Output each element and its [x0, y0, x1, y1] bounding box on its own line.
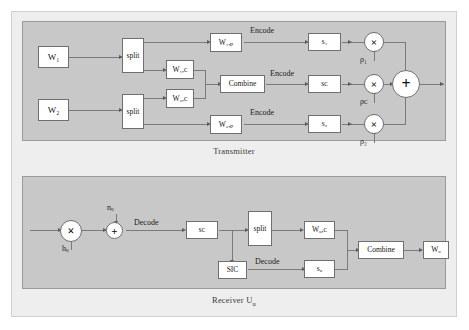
node-rx-adder: + — [106, 222, 123, 239]
arrowhead-sum-output — [440, 82, 444, 86]
node-wuc: Wᵤ,ᴄ — [304, 221, 335, 239]
node-sic: SIC — [218, 261, 247, 279]
label-encode-c: Encode — [270, 69, 294, 78]
edge-w2c-bus — [192, 98, 206, 99]
edge-sc-multc — [342, 84, 364, 85]
receiver-caption-subscript: u — [253, 300, 256, 307]
node-split-1: split — [122, 38, 144, 73]
edge-sc-junction — [219, 230, 247, 231]
edge-split-wuc — [272, 230, 302, 231]
node-w2: W₂ — [38, 99, 69, 121]
edge-s2-mult2 — [342, 124, 364, 125]
node-su: sᵤ — [304, 260, 335, 278]
figure-canvas: W₁ W₂ split split W₁,ᴄ W₂,ᴄ W₁,ₚ W₂,ₚ Co… — [0, 0, 469, 330]
edge-w1c-bus — [192, 70, 206, 71]
arrowhead-s1-mult1 — [348, 40, 352, 44]
edge-rho2-input — [374, 133, 375, 143]
edge-combine-sc — [266, 84, 306, 85]
edge-rhoc-input — [374, 93, 375, 103]
node-w1p: W₁,ₚ — [210, 33, 242, 52]
edge-wuc-bus — [334, 230, 348, 231]
label-rho-2: ρ₂ — [360, 137, 367, 146]
label-decode-top: Decode — [134, 218, 158, 227]
receiver-caption-text: Receiver U — [212, 295, 252, 305]
edge-junction-sic-vert — [232, 230, 233, 263]
label-encode-2: Encode — [250, 108, 274, 117]
edge-split2-w2p — [144, 124, 208, 125]
edge-sic-su — [248, 269, 304, 270]
edge-s1-mult1 — [342, 42, 364, 43]
node-multiplier-2: × — [364, 114, 384, 134]
edge-mult2-bus — [384, 124, 406, 125]
node-multiplier-c: × — [364, 74, 384, 94]
node-rx-multiplier: × — [60, 220, 82, 242]
label-decode-bottom: Decode — [255, 257, 279, 266]
arrowhead-sc-multc — [348, 82, 352, 86]
edge-adder-sc — [126, 230, 183, 231]
node-combine: Combine — [220, 75, 265, 93]
node-s2: s₂ — [308, 115, 341, 133]
node-s1: s₁ — [308, 33, 341, 51]
node-summation: + — [392, 70, 420, 98]
label-rho-1: ρ₁ — [360, 55, 367, 64]
edge-w2p-s2 — [244, 124, 306, 125]
transmitter-caption: Transmitter — [22, 146, 446, 156]
edge-bus-combine — [205, 84, 219, 85]
node-sc: sᴄ — [308, 75, 341, 93]
edge-rx-input — [30, 230, 60, 231]
node-multiplier-1: × — [364, 32, 384, 52]
edge-mult1-bus — [384, 42, 406, 43]
edge-w2-split2 — [68, 110, 120, 111]
node-w2p: W₂,ₚ — [210, 115, 242, 134]
node-w2c: W₂,ᴄ — [166, 89, 194, 108]
node-w1c: W₁,ᴄ — [166, 60, 194, 79]
edge-rho1-input — [374, 51, 375, 61]
edge-split1-w1c — [144, 70, 164, 71]
edge-split2-w2c — [144, 98, 164, 99]
edge-w1p-s1 — [244, 42, 306, 43]
arrowhead-s2-mult2 — [348, 122, 352, 126]
node-rx-sc: sᴄ — [186, 221, 218, 239]
receiver-caption: Receiver Uu — [22, 295, 446, 307]
label-rho-c: ρᴄ — [360, 97, 368, 106]
node-split-2: split — [122, 94, 144, 129]
edge-split1-w1p — [144, 42, 208, 43]
node-rx-combine: Combine — [358, 241, 404, 259]
node-rx-split: split — [248, 211, 272, 246]
edge-w1-split1 — [68, 57, 120, 58]
label-noise-nu: nᵤ — [107, 203, 114, 212]
node-wu: Wᵤ — [423, 241, 449, 259]
node-w1: W₁ — [38, 46, 69, 68]
edge-su-bus — [334, 269, 348, 270]
label-channel-hu: hᵤ — [62, 244, 69, 253]
label-encode-1: Encode — [250, 26, 274, 35]
